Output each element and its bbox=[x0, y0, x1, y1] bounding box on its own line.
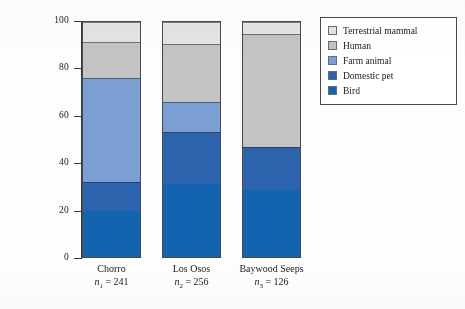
bar-segment[interactable] bbox=[243, 22, 300, 34]
legend-swatch-icon bbox=[328, 71, 337, 80]
y-tick-label: 100 bbox=[54, 15, 69, 25]
bar-segment[interactable] bbox=[163, 22, 220, 44]
legend-item[interactable]: Domestic pet bbox=[328, 68, 450, 83]
y-tick-label: 20 bbox=[59, 205, 69, 215]
y-tick-mark bbox=[74, 68, 81, 69]
legend: Terrestrial mammalHumanFarm animalDomest… bbox=[320, 17, 457, 105]
legend-item-label: Farm animal bbox=[343, 56, 391, 66]
legend-item[interactable]: Bird bbox=[328, 83, 450, 98]
bar-segment[interactable] bbox=[83, 182, 140, 211]
legend-swatch-icon bbox=[328, 86, 337, 95]
legend-item-label: Human bbox=[343, 41, 371, 51]
y-tick-mark bbox=[74, 211, 81, 212]
y-tick-mark bbox=[74, 21, 81, 22]
bar-chorro[interactable] bbox=[82, 21, 141, 258]
bar-segment[interactable] bbox=[163, 184, 220, 257]
bar-segment[interactable] bbox=[83, 211, 140, 257]
bar-segment[interactable] bbox=[83, 78, 140, 181]
figure-canvas: Percentage 020406080100 Chorron1 = 241Lo… bbox=[0, 0, 465, 309]
bar-baywood-seeps[interactable] bbox=[242, 21, 301, 258]
y-tick-mark bbox=[74, 163, 81, 164]
bar-segment[interactable] bbox=[163, 44, 220, 103]
legend-swatch-icon bbox=[328, 41, 337, 50]
y-tick-label: 80 bbox=[59, 62, 69, 72]
legend-item-label: Terrestrial mammal bbox=[343, 26, 418, 36]
category-name: Baywood Seeps bbox=[239, 263, 303, 274]
bar-segment[interactable] bbox=[243, 190, 300, 257]
y-tick-label: 0 bbox=[64, 252, 69, 262]
legend-item-label: Domestic pet bbox=[343, 71, 393, 81]
bar-segment[interactable] bbox=[243, 34, 300, 147]
y-tick-mark bbox=[74, 116, 81, 117]
bar-segment[interactable] bbox=[83, 42, 140, 78]
y-tick-label: 40 bbox=[59, 157, 69, 167]
legend-item[interactable]: Human bbox=[328, 38, 450, 53]
legend-swatch-icon bbox=[328, 56, 337, 65]
legend-item[interactable]: Farm animal bbox=[328, 53, 450, 68]
x-axis-category-label: Baywood Seepsn3 = 126 bbox=[217, 262, 327, 293]
category-name: Los Osos bbox=[173, 263, 211, 274]
bar-segment[interactable] bbox=[163, 102, 220, 132]
sample-size-label: n3 = 126 bbox=[217, 275, 327, 293]
y-tick-label: 60 bbox=[59, 110, 69, 120]
bar-los-osos[interactable] bbox=[162, 21, 221, 258]
legend-item[interactable]: Terrestrial mammal bbox=[328, 23, 450, 38]
category-name: Chorro bbox=[97, 263, 125, 274]
bar-segment[interactable] bbox=[243, 147, 300, 190]
legend-item-label: Bird bbox=[343, 86, 360, 96]
plot-area bbox=[82, 21, 301, 258]
bar-segment[interactable] bbox=[163, 132, 220, 184]
bar-segment[interactable] bbox=[83, 22, 140, 42]
legend-swatch-icon bbox=[328, 26, 337, 35]
y-tick-mark bbox=[74, 258, 81, 259]
